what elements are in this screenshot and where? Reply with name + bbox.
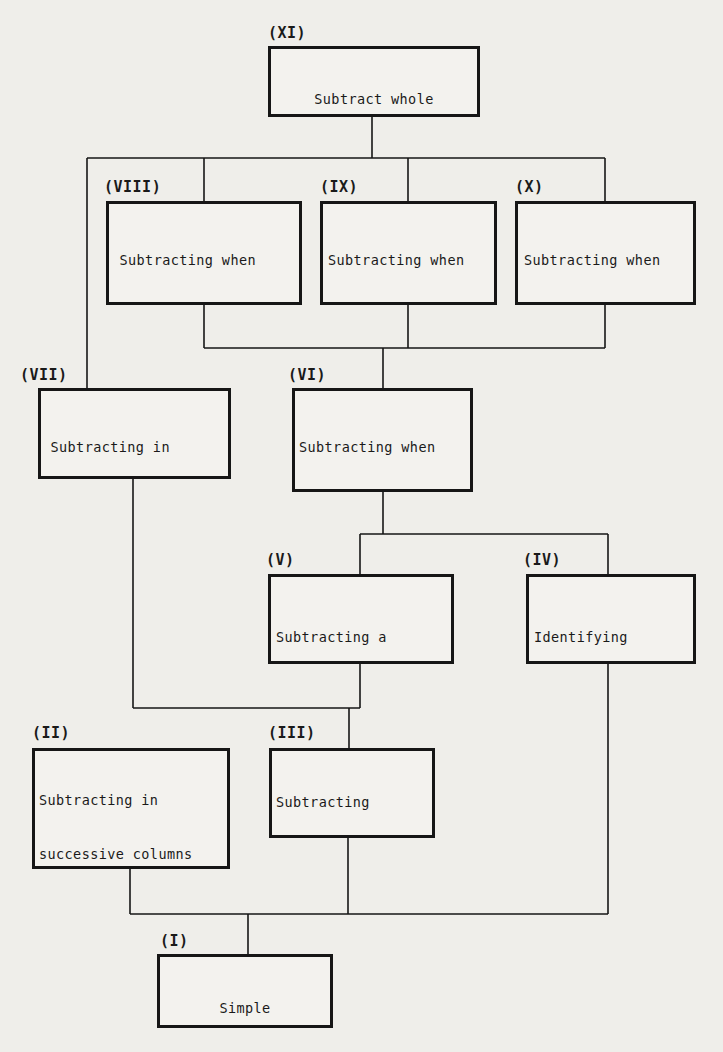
node-text: Subtracting when bbox=[111, 250, 297, 271]
node-box-viii: Subtracting when several borrowings are … bbox=[106, 201, 302, 305]
node-text: Subtracting when bbox=[524, 250, 687, 271]
node-box-iv: Identifying where borrowing is to be don… bbox=[526, 574, 696, 664]
learning-hierarchy-diagram: (XI) Subtract whole numbers of any size … bbox=[0, 0, 723, 1052]
node-text: Subtracting when bbox=[328, 250, 489, 271]
node-label-v: (V) bbox=[266, 551, 295, 569]
node-box-iii: Subtracting when a 0 is understood -"bri… bbox=[269, 748, 435, 838]
node-label-vi: (VI) bbox=[288, 366, 326, 384]
node-text: successive columns bbox=[39, 845, 223, 863]
node-label-ix: (IX) bbox=[320, 178, 358, 196]
node-text: Subtracting a bbox=[276, 627, 446, 648]
node-text: Simple bbox=[164, 1000, 326, 1017]
node-text: Subtract whole bbox=[276, 89, 472, 109]
node-label-x: (X) bbox=[515, 178, 544, 196]
node-box-xi: Subtract whole numbers of any size bbox=[268, 46, 480, 117]
node-box-i: Simple subtraction ("facts") bbox=[157, 954, 333, 1028]
node-text: Identifying bbox=[534, 627, 688, 648]
node-text: Subtracting bbox=[276, 794, 428, 811]
node-label-vii: (VII) bbox=[20, 366, 68, 384]
node-label-iii: (III) bbox=[268, 724, 316, 742]
node-label-ii: (II) bbox=[32, 724, 70, 742]
node-box-v: Subtracting a one-digit number, with bor… bbox=[268, 574, 454, 664]
node-text: Subtracting in bbox=[42, 437, 227, 458]
node-text: Subtracting in bbox=[39, 791, 223, 809]
node-label-viii: (VIII) bbox=[104, 178, 161, 196]
node-box-vi: Subtracting when a single borrow- ing is… bbox=[292, 388, 473, 492]
node-label-xi: (XI) bbox=[268, 24, 306, 42]
node-box-x: Subtracting when 'double borrow- ing' is… bbox=[515, 201, 696, 305]
node-label-i: (I) bbox=[160, 932, 189, 950]
node-text: Subtracting when bbox=[299, 437, 466, 458]
node-label-iv: (IV) bbox=[523, 551, 561, 569]
node-box-ix: Subtracting when successive bor- rowing … bbox=[320, 201, 497, 305]
node-box-ii: Subtracting in successive columns where … bbox=[32, 748, 230, 869]
node-box-vii: Subtracting in successive columns withou… bbox=[38, 388, 231, 479]
connector-lines bbox=[0, 0, 723, 1052]
